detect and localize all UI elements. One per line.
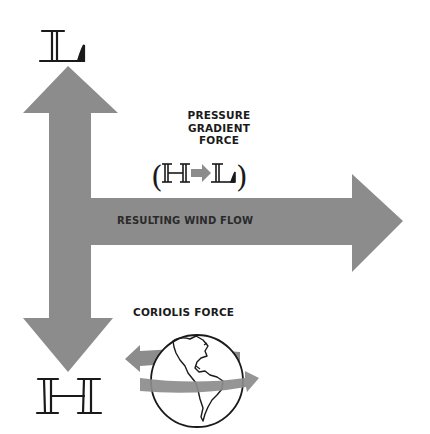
pressure-gradient-label: PRESSURE GRADIENT FORCE bbox=[160, 109, 278, 147]
coriolis-globe-group bbox=[125, 335, 259, 427]
pressure-gradient-line3: FORCE bbox=[160, 134, 278, 147]
formula-l-symbol bbox=[211, 164, 235, 182]
high-pressure-symbol bbox=[37, 379, 101, 413]
coriolis-label: CORIOLIS FORCE bbox=[133, 306, 234, 318]
pressure-gradient-line1: PRESSURE bbox=[160, 109, 278, 122]
resulting-wind-label: RESULTING WIND FLOW bbox=[117, 215, 253, 226]
formula-close-paren: ) bbox=[236, 159, 248, 194]
formula-h-symbol bbox=[162, 164, 190, 182]
formula-arrow-icon bbox=[191, 164, 211, 182]
pressure-gradient-line2: GRADIENT bbox=[160, 122, 278, 135]
low-pressure-symbol bbox=[40, 31, 84, 61]
pressure-gradient-formula: ( ) bbox=[151, 159, 248, 194]
formula-open-paren: ( bbox=[151, 159, 163, 194]
